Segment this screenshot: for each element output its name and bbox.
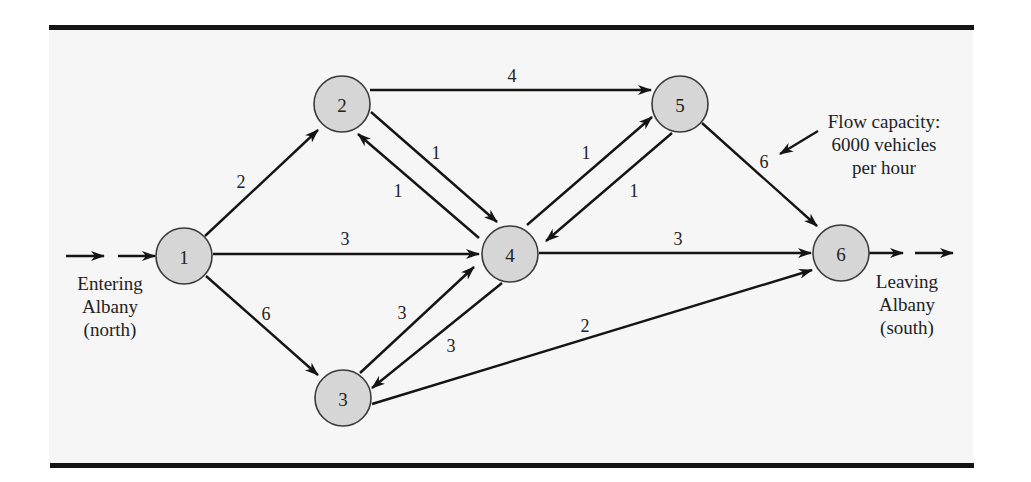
node-6-label: 6 [836, 244, 846, 265]
node-4-label: 4 [505, 245, 515, 266]
node-2-label: 2 [337, 95, 347, 116]
node-5: 5 [652, 76, 708, 132]
sink-label: Leaving Albany (south) [876, 271, 939, 339]
capacity-2-5: 4 [508, 66, 517, 86]
source-label-line-3: (north) [84, 319, 137, 341]
sink-label-line-3: (south) [880, 317, 934, 339]
capacity-5-4: 1 [630, 181, 639, 201]
node-3-label: 3 [338, 389, 348, 410]
source-label-line-2: Albany [82, 296, 138, 317]
sink-label-line-2: Albany [879, 294, 935, 315]
capacity-4-5: 1 [582, 143, 591, 163]
annotation-line-3: per hour [852, 157, 917, 178]
top-rule [49, 25, 974, 30]
capacity-5-6: 6 [760, 152, 769, 172]
source-label: Entering Albany (north) [77, 273, 143, 341]
bottom-rule [50, 463, 974, 468]
node-5-label: 5 [675, 95, 685, 116]
node-1-label: 1 [179, 247, 189, 268]
capacity-2-4: 1 [432, 143, 441, 163]
annotation-line-2: 6000 vehicles [831, 134, 936, 155]
node-4: 4 [482, 226, 538, 282]
capacity-1-4: 3 [341, 229, 350, 249]
network-diagram: 2 3 6 4 1 1 3 3 1 1 3 6 2 1 2 3 4 [0, 0, 1031, 482]
capacity-4-6: 3 [674, 229, 683, 249]
capacity-1-2: 2 [237, 172, 246, 192]
node-3: 3 [315, 370, 371, 426]
capacity-4-3: 3 [447, 336, 456, 356]
source-label-line-1: Entering [77, 273, 143, 294]
node-1: 1 [156, 228, 212, 284]
capacity-4-2: 1 [394, 181, 403, 201]
capacity-3-6: 2 [581, 316, 590, 336]
capacity-3-4: 3 [398, 303, 407, 323]
sink-label-line-1: Leaving [876, 271, 939, 292]
annotation-line-1: Flow capacity: [828, 111, 940, 132]
capacity-1-3: 6 [262, 304, 271, 324]
node-6: 6 [813, 225, 869, 281]
node-2: 2 [314, 76, 370, 132]
